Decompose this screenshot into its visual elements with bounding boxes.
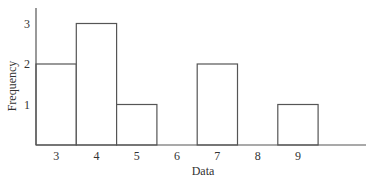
x-tick-7: 7 <box>214 149 220 163</box>
x-tick-9: 9 <box>295 149 301 163</box>
bar-9 <box>278 105 318 146</box>
histogram-chart: 123 3456789 Data Frequency <box>0 0 373 182</box>
x-tick-8: 8 <box>255 149 261 163</box>
x-axis-label: Data <box>192 164 215 178</box>
y-tick-2: 2 <box>24 57 30 71</box>
bars-group <box>36 24 318 146</box>
y-axis-label: Frequency <box>5 61 19 112</box>
x-tick-4: 4 <box>93 149 99 163</box>
bar-7 <box>197 64 237 145</box>
y-tick-3: 3 <box>24 17 30 31</box>
y-tick-labels: 123 <box>24 17 30 112</box>
x-tick-labels: 3456789 <box>53 149 301 163</box>
bar-4 <box>76 24 116 146</box>
x-tick-3: 3 <box>53 149 59 163</box>
x-tick-5: 5 <box>134 149 140 163</box>
x-tick-6: 6 <box>174 149 180 163</box>
bar-3 <box>36 64 76 145</box>
bar-5 <box>117 105 157 146</box>
y-tick-1: 1 <box>24 98 30 112</box>
